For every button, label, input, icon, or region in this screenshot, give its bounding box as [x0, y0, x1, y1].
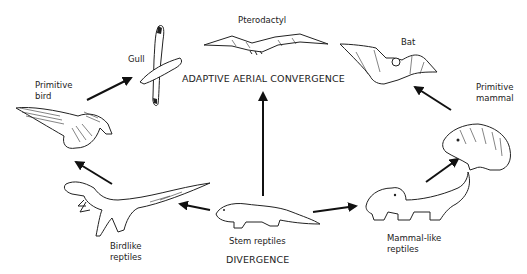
bat-illustration: [340, 44, 437, 84]
primitive-bird-illustration: [16, 107, 112, 148]
label-mammal-like-reptiles-line2: reptiles: [387, 244, 441, 255]
arrow-mammallike-to-mammal: [426, 159, 458, 182]
label-mammal-like-reptiles-line1: Mammal-like: [387, 233, 441, 244]
birdlike-reptile-illustration: [64, 182, 210, 236]
label-birdlike-reptiles-line2: reptiles: [110, 252, 142, 263]
label-primitive-bird: Primitive bird: [35, 80, 72, 102]
label-primitive-mammal-line2: mammal: [476, 93, 514, 104]
label-primitive-mammal: Primitive mammal: [476, 82, 514, 104]
arrow-birdlike-to-bird: [76, 162, 112, 184]
arrow-bird-to-gull: [87, 78, 131, 100]
gull-illustration: [140, 26, 182, 106]
label-birdlike-reptiles: Birdlike reptiles: [110, 241, 142, 263]
label-stem-reptiles: Stem reptiles: [229, 236, 286, 247]
stem-reptile-illustration: [216, 203, 320, 228]
label-primitive-mammal-line1: Primitive: [476, 82, 514, 93]
pterodactyl-illustration: [204, 34, 328, 55]
label-bat: Bat: [401, 37, 415, 48]
label-primitive-bird-line2: bird: [35, 91, 72, 102]
arrow-mammal-to-bat: [415, 87, 451, 110]
label-primitive-bird-line1: Primitive: [35, 80, 72, 91]
title-adaptive-aerial-convergence: ADAPTIVE AERIAL CONVERGENCE: [182, 73, 345, 84]
label-mammal-like-reptiles: Mammal-like reptiles: [387, 233, 441, 255]
mammal-like-reptile-illustration: [366, 172, 470, 220]
label-birdlike-reptiles-line1: Birdlike: [110, 241, 142, 252]
diagram-canvas: [0, 0, 527, 274]
label-pterodactyl: Pterodactyl: [238, 15, 286, 26]
title-divergence: DIVERGENCE: [226, 254, 289, 265]
arrow-stem-to-birdlike: [180, 204, 210, 210]
arrow-stem-to-mammallike: [313, 206, 356, 212]
label-gull: Gull: [128, 54, 145, 65]
